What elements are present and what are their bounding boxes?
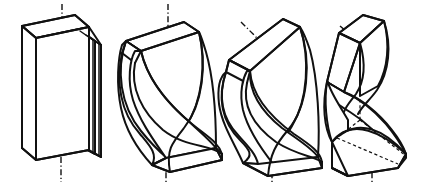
- figure-plate: [0, 0, 429, 188]
- block1-front-face: [36, 27, 89, 160]
- block1-left-face: [22, 26, 36, 160]
- block3-top-face: [229, 19, 300, 71]
- panel-untwisted-block: [0, 0, 429, 188]
